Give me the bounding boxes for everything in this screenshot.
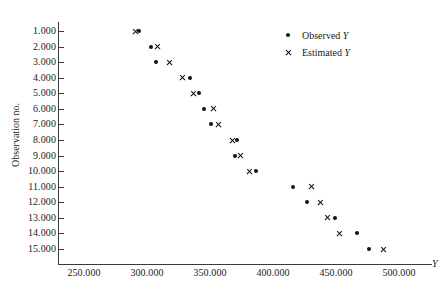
- y-tick-label-text: 14.000: [4, 228, 56, 238]
- x-tick-label: 450.000: [306, 268, 366, 278]
- x-tick-label: 250.000: [54, 268, 114, 278]
- observed-point-marker: [154, 60, 158, 64]
- y-tick-label-text: 13.000: [4, 213, 56, 223]
- observed-point-marker: [305, 200, 309, 204]
- y-tick-mark: [59, 109, 64, 110]
- y-tick-label: 14.000: [0, 228, 56, 238]
- y-tick-mark: [59, 47, 64, 48]
- y-tick-label: 15.000: [0, 244, 56, 254]
- x-tick-label: 300.000: [117, 268, 177, 278]
- y-axis-line: [58, 22, 59, 264]
- y-tick-mark: [59, 124, 64, 125]
- observed-point-marker: [188, 76, 192, 80]
- y-tick-label-text: 15.000: [4, 244, 56, 254]
- scatter-chart: 1.0002.0003.0004.0005.0006.0007.0008.000…: [0, 0, 448, 298]
- legend-item: Observed Y: [288, 27, 408, 44]
- y-tick-mark: [59, 249, 64, 250]
- legend-symbol: Y: [343, 30, 349, 41]
- x-axis-line: [58, 264, 432, 265]
- estimated-point-marker: [210, 105, 217, 112]
- observed-legend-marker: [286, 33, 290, 37]
- legend-symbol: Y: [345, 47, 351, 58]
- estimated-point-marker: [229, 137, 236, 144]
- y-tick-label: 1.000: [0, 26, 56, 36]
- estimated-point-marker: [154, 43, 161, 50]
- observed-point-marker: [209, 122, 213, 126]
- x-tick-label: 350.000: [180, 268, 240, 278]
- observed-point-marker: [367, 247, 371, 251]
- y-tick-mark: [59, 62, 64, 63]
- y-tick-label: 13.000: [0, 213, 56, 223]
- y-tick-label: 2.000: [0, 42, 56, 52]
- observed-point-marker: [254, 169, 258, 173]
- estimated-point-marker: [336, 230, 343, 237]
- estimated-point-marker: [380, 246, 387, 253]
- y-tick-mark: [59, 171, 64, 172]
- y-tick-mark: [59, 156, 64, 157]
- observed-point-marker: [333, 216, 337, 220]
- estimated-legend-marker: [285, 49, 292, 56]
- estimated-point-marker: [237, 152, 244, 159]
- observed-point-marker: [197, 91, 201, 95]
- observed-point-marker: [233, 154, 237, 158]
- y-tick-mark: [59, 31, 64, 32]
- y-tick-mark: [59, 187, 64, 188]
- x-tick-label: 400.000: [243, 268, 303, 278]
- estimated-point-marker: [179, 74, 186, 81]
- y-tick-mark: [59, 78, 64, 79]
- estimated-point-marker: [308, 183, 315, 190]
- y-tick-label: 11.000: [0, 182, 56, 192]
- estimated-point-marker: [246, 168, 253, 175]
- estimated-point-marker: [215, 121, 222, 128]
- y-tick-label-text: 2.000: [4, 42, 56, 52]
- y-axis-title: Observation no.: [11, 75, 21, 195]
- estimated-point-marker: [132, 28, 139, 35]
- y-tick-label: 8.000: [0, 135, 56, 145]
- y-tick-mark: [59, 140, 64, 141]
- observed-point-marker: [202, 107, 206, 111]
- y-tick-label: 10.000: [0, 166, 56, 176]
- observed-point-marker: [355, 231, 359, 235]
- y-tick-mark: [59, 218, 64, 219]
- observed-point-marker: [291, 185, 295, 189]
- x-tick-label: 500.000: [369, 268, 429, 278]
- y-tick-mark: [59, 233, 64, 234]
- y-tick-label-text: 12.000: [4, 197, 56, 207]
- estimated-point-marker: [166, 59, 173, 66]
- y-tick-label: 3.000: [0, 57, 56, 67]
- legend-item-label: Observed Y: [302, 27, 348, 44]
- chart-legend: Observed YEstimated Y: [288, 27, 408, 61]
- estimated-point-marker: [190, 90, 197, 97]
- observed-point-marker: [235, 138, 239, 142]
- y-tick-label-text: 3.000: [4, 57, 56, 67]
- y-tick-label: 6.000: [0, 104, 56, 114]
- x-axis-title: Y: [432, 259, 438, 269]
- y-tick-mark: [59, 202, 64, 203]
- legend-item: Estimated Y: [288, 44, 408, 61]
- observed-point-marker: [149, 45, 153, 49]
- y-tick-mark: [59, 93, 64, 94]
- y-tick-label: 9.000: [0, 151, 56, 161]
- y-tick-label: 4.000: [0, 73, 56, 83]
- estimated-point-marker: [324, 214, 331, 221]
- legend-item-label: Estimated Y: [302, 44, 350, 61]
- y-tick-label: 5.000: [0, 88, 56, 98]
- y-tick-label: 7.000: [0, 119, 56, 129]
- y-tick-label-text: 1.000: [4, 26, 56, 36]
- estimated-point-marker: [317, 199, 324, 206]
- y-tick-label: 12.000: [0, 197, 56, 207]
